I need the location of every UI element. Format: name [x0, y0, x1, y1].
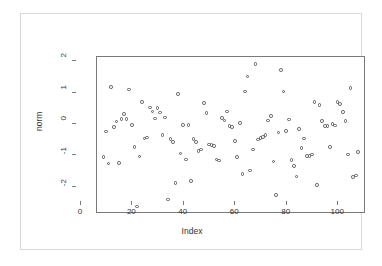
y-axis-tick-label: 1 — [60, 85, 68, 89]
data-point — [326, 124, 330, 128]
data-point — [109, 85, 113, 89]
data-point — [344, 119, 348, 123]
y-axis-tick — [72, 154, 76, 155]
data-point — [251, 148, 255, 152]
x-axis-tick — [183, 201, 184, 205]
data-point — [151, 110, 155, 114]
data-point — [161, 133, 165, 137]
data-point — [272, 160, 276, 164]
data-point — [295, 175, 299, 179]
data-point — [315, 183, 319, 187]
data-point — [300, 146, 304, 150]
data-point — [341, 110, 345, 114]
data-point — [189, 179, 193, 183]
y-axis-title: norm — [34, 43, 44, 200]
data-point — [264, 133, 268, 137]
data-point — [287, 118, 291, 122]
y-axis-tick-label: 0 — [60, 116, 68, 120]
data-point — [223, 119, 227, 123]
data-point — [202, 101, 206, 105]
data-point — [148, 106, 152, 110]
data-point — [127, 88, 131, 92]
data-point — [194, 140, 198, 144]
data-point — [284, 129, 288, 133]
data-point — [158, 111, 162, 115]
data-point — [107, 162, 111, 166]
data-point — [125, 117, 129, 121]
scatter-points-layer — [97, 57, 364, 212]
data-point — [199, 148, 203, 152]
data-point — [230, 125, 234, 129]
y-axis-tick-label: -2 — [60, 179, 68, 186]
x-axis-tick-label: 100 — [331, 207, 344, 216]
y-axis-tick — [72, 186, 76, 187]
y-axis-tick-label: -1 — [60, 147, 68, 154]
data-point — [233, 139, 237, 143]
data-point — [333, 124, 337, 128]
x-axis-tick — [234, 201, 235, 205]
data-point — [356, 150, 360, 154]
data-point — [181, 123, 185, 127]
data-point — [104, 130, 108, 134]
data-point — [115, 120, 119, 124]
data-point — [217, 159, 221, 163]
plot-area — [96, 56, 365, 213]
data-point — [112, 125, 116, 129]
data-point — [313, 100, 317, 104]
data-point — [122, 112, 126, 116]
x-axis-title: Index — [21, 226, 363, 236]
data-point — [145, 136, 149, 140]
data-point — [130, 123, 134, 127]
data-point — [174, 181, 178, 185]
y-axis-tick-label: 2 — [60, 53, 68, 57]
data-point — [277, 131, 281, 135]
data-point — [254, 62, 258, 66]
data-point — [120, 117, 124, 121]
data-point — [187, 123, 191, 127]
data-point — [163, 116, 167, 120]
data-point — [318, 103, 322, 107]
data-point — [246, 75, 250, 79]
data-point — [153, 117, 157, 121]
x-axis-tick — [131, 201, 132, 205]
data-point — [292, 164, 296, 168]
screenshot-root: -2-1012 020406080100 norm Index — [0, 0, 382, 266]
data-point — [338, 102, 342, 106]
data-point — [212, 144, 216, 148]
x-axis-tick-label: 0 — [78, 207, 82, 216]
y-axis-tick — [72, 92, 76, 93]
x-axis-tick — [80, 201, 81, 205]
x-axis-tick-label: 80 — [281, 207, 290, 216]
data-point — [179, 152, 183, 156]
data-point — [171, 140, 175, 144]
data-point — [328, 145, 332, 149]
x-axis-tick — [286, 201, 287, 205]
data-point — [238, 121, 242, 125]
data-point — [166, 198, 170, 202]
y-axis-tick — [72, 60, 76, 61]
data-point — [354, 174, 358, 178]
data-point — [346, 153, 350, 157]
data-point — [140, 100, 144, 104]
data-point — [282, 90, 286, 94]
data-point — [205, 111, 209, 115]
data-point — [349, 86, 353, 90]
y-axis-tick — [72, 123, 76, 124]
data-point — [297, 127, 301, 131]
data-point — [266, 119, 270, 123]
data-point — [243, 90, 247, 94]
x-axis-tick-label: 60 — [230, 207, 239, 216]
data-point — [133, 145, 137, 149]
data-point — [184, 158, 188, 162]
data-point — [176, 92, 180, 96]
data-point — [274, 193, 278, 197]
data-point — [302, 137, 306, 141]
data-point — [102, 155, 106, 159]
data-point — [241, 172, 245, 176]
data-point — [225, 110, 229, 114]
x-axis-tick-label: 40 — [178, 207, 187, 216]
data-point — [138, 155, 142, 159]
x-axis-tick — [337, 201, 338, 205]
data-point — [279, 68, 283, 72]
data-point — [269, 114, 273, 118]
